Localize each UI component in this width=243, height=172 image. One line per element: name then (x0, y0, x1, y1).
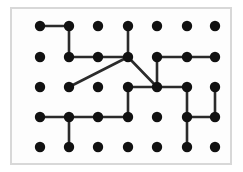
grid-dot-c0-r1 (35, 52, 45, 62)
grid-dot-c4-r0 (152, 21, 162, 31)
grid-dot-c6-r2 (210, 82, 220, 92)
grid-dot-c1-r0 (64, 21, 74, 31)
grid-dot-c1-r3 (64, 112, 74, 122)
grid-dot-c4-r2 (152, 82, 162, 92)
grid-edge-diagonal-6 (128, 57, 157, 87)
grid-dot-c1-r2 (64, 82, 74, 92)
grid-dot-c5-r0 (182, 21, 192, 31)
dot-grid-figure (0, 0, 243, 172)
grid-dot-c4-r4 (152, 142, 162, 152)
grid-dot-c3-r0 (123, 21, 133, 31)
grid-dot-c5-r2 (182, 82, 192, 92)
grid-dot-c5-r1 (182, 52, 192, 62)
grid-dot-c3-r3 (123, 112, 133, 122)
dot-grid-canvas (0, 0, 243, 172)
grid-dot-c3-r1 (123, 52, 133, 62)
grid-dot-c2-r3 (93, 112, 103, 122)
grid-dot-c4-r3 (152, 112, 162, 122)
grid-dot-c6-r1 (210, 52, 220, 62)
grid-dot-c2-r0 (93, 21, 103, 31)
grid-dot-c6-r0 (210, 21, 220, 31)
grid-dot-c3-r2 (123, 82, 133, 92)
grid-dot-c5-r4 (182, 142, 192, 152)
grid-dot-c0-r4 (35, 142, 45, 152)
grid-dot-c0-r0 (35, 21, 45, 31)
grid-dot-c4-r1 (152, 52, 162, 62)
grid-dot-c3-r4 (123, 142, 133, 152)
grid-dot-c5-r3 (182, 112, 192, 122)
grid-dot-c1-r4 (64, 142, 74, 152)
grid-dot-c6-r4 (210, 142, 220, 152)
grid-dot-c6-r3 (210, 112, 220, 122)
grid-dot-c2-r2 (93, 82, 103, 92)
grid-dot-c0-r2 (35, 82, 45, 92)
grid-dot-c2-r4 (93, 142, 103, 152)
grid-dot-c2-r1 (93, 52, 103, 62)
grid-dot-c0-r3 (35, 112, 45, 122)
grid-dot-c1-r1 (64, 52, 74, 62)
